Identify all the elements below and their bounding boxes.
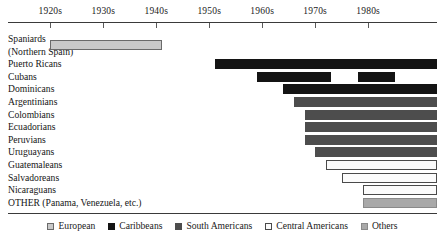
- chart-row: Spaniards(Northern Spain): [0, 33, 445, 58]
- chart-row: Argentinians: [0, 96, 445, 109]
- chart-row: Peruvians: [0, 134, 445, 147]
- axis-tick-mark-1920s: [50, 23, 51, 28]
- row-label: Ecuadorians: [8, 121, 55, 133]
- legend-label: Caribbeans: [119, 221, 162, 231]
- timeline-bar: [215, 59, 437, 69]
- axis-tick-mark-1950s: [209, 23, 210, 28]
- chart-row: Puerto Ricans: [0, 58, 445, 71]
- legend-swatch-icon: [175, 223, 182, 230]
- chart-legend: EuropeanCaribbeansSouth AmericansCentral…: [0, 221, 445, 231]
- timeline-bar: [342, 173, 437, 183]
- timeline-bar: [305, 135, 437, 145]
- axis-tick-mark-1960s: [262, 23, 263, 28]
- row-label: Peruvians: [8, 134, 46, 146]
- legend-swatch-icon: [47, 223, 54, 230]
- timeline-bar: [363, 185, 437, 195]
- legend-item: South Americans: [175, 221, 252, 231]
- legend-swatch-icon: [361, 223, 368, 230]
- timeline-bar: [363, 198, 437, 208]
- axis-tick-label-1950s: 1950s: [197, 6, 221, 16]
- chart-row: OTHER (Panama, Venezuela, etc.): [0, 197, 445, 210]
- row-label: Guatemaleans: [8, 159, 62, 171]
- timeline-bar: [315, 147, 437, 157]
- timeline-bar: [326, 160, 437, 170]
- chart-row: Ecuadorians: [0, 121, 445, 134]
- row-label: Puerto Ricans: [8, 58, 62, 70]
- chart-row: Dominicans: [0, 83, 445, 96]
- axis-tick-label-1930s: 1930s: [91, 6, 115, 16]
- chart-row: Colombians: [0, 109, 445, 122]
- legend-item: Caribbeans: [108, 221, 162, 231]
- legend-swatch-icon: [265, 223, 272, 230]
- time-axis-line: [8, 22, 437, 23]
- chart-row: Salvadoreans: [0, 172, 445, 185]
- axis-tick-label-1920s: 1920s: [39, 6, 63, 16]
- timeline-bar: [305, 110, 437, 120]
- row-label: Uruguayans: [8, 146, 54, 158]
- chart-row: Uruguayans: [0, 146, 445, 159]
- legend-label: European: [58, 221, 95, 231]
- row-label: Cubans: [8, 71, 37, 83]
- row-label: Nicaraguans: [8, 184, 56, 196]
- legend-item: European: [47, 221, 95, 231]
- legend-label: South Americans: [186, 221, 252, 231]
- chart-row: Cubans: [0, 71, 445, 84]
- row-label: Dominicans: [8, 83, 54, 95]
- row-label: Colombians: [8, 109, 54, 121]
- legend-item: Central Americans: [265, 221, 348, 231]
- axis-tick-mark-1970s: [315, 23, 316, 28]
- axis-tick-label-1970s: 1970s: [303, 6, 327, 16]
- immigration-timeline-chart: 1920s1930s1940s1950s1960s1970s1980s Span…: [0, 0, 445, 240]
- row-label: Salvadoreans: [8, 172, 59, 184]
- axis-tick-mark-1930s: [103, 23, 104, 28]
- row-label: Spaniards: [8, 33, 46, 45]
- axis-tick-mark-1980s: [368, 23, 369, 28]
- legend-divider-rule: [8, 213, 437, 214]
- axis-tick-label-1980s: 1980s: [356, 6, 380, 16]
- axis-tick-label-1940s: 1940s: [144, 6, 168, 16]
- legend-swatch-icon: [108, 223, 115, 230]
- axis-tick-mark-1940s: [156, 23, 157, 28]
- timeline-bar: [294, 97, 437, 107]
- timeline-bar: [50, 40, 161, 50]
- row-label: OTHER (Panama, Venezuela, etc.): [8, 197, 142, 209]
- axis-tick-label-1960s: 1960s: [250, 6, 274, 16]
- timeline-bar: [358, 72, 395, 82]
- chart-row: Nicaraguans: [0, 184, 445, 197]
- row-label: Argentinians: [8, 96, 57, 108]
- legend-label: Others: [372, 221, 398, 231]
- timeline-bar: [257, 72, 331, 82]
- legend-label: Central Americans: [276, 221, 348, 231]
- timeline-bar: [305, 122, 437, 132]
- timeline-bar: [283, 84, 437, 94]
- legend-item: Others: [361, 221, 398, 231]
- chart-row: Guatemaleans: [0, 159, 445, 172]
